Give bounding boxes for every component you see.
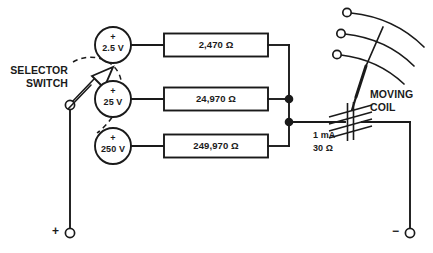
source-label-3: 250 V [89,144,137,154]
source-plus-symbol-3: + [103,133,123,143]
meter-current-rating: 1 mA [313,129,335,141]
negative-terminal-symbol: − [392,225,399,238]
source-label-1: 2.5 V [91,43,135,53]
moving-coil-label-line2: COIL [370,101,395,114]
scale-terminal-icon-3[interactable] [333,50,341,58]
positive-terminal-icon[interactable] [65,228,74,237]
meter-resistance-rating: 30 Ω [313,142,333,154]
source-plus-symbol-2: + [103,86,123,96]
meter-scale-arcs [333,8,424,84]
resistor-label-2: 24,970 Ω [164,94,268,105]
scale-terminal-icon-1[interactable] [343,8,351,16]
source-plus-symbol-1: + [103,32,123,42]
junction-dot-icon [285,95,294,104]
selector-switch-label-line1: SELECTOR [6,64,68,77]
moving-coil-label-line1: MOVING [370,88,413,101]
negative-terminal-icon[interactable] [405,228,414,237]
resistor-label-1: 2,470 Ω [164,40,268,51]
positive-terminal-symbol: + [52,225,59,238]
circuit-schematic-svg [0,0,433,253]
scale-arc-2 [345,34,414,66]
scale-arc-3 [341,55,404,84]
scale-terminal-icon-2[interactable] [337,29,345,37]
resistor-label-3: 249,970 Ω [164,141,268,152]
scale-arc-1 [351,13,424,47]
source-label-2: 25 V [91,97,135,107]
circuit-diagram: + 2.5 V 2,470 Ω + 25 V 24,970 Ω + 250 V … [0,0,433,253]
selector-switch-label-line2: SWITCH [6,77,68,90]
